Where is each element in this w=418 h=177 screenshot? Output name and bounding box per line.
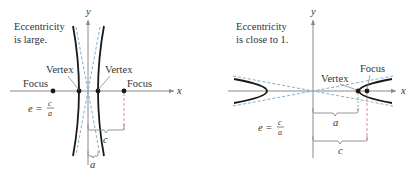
left-brace-c-label: c: [103, 134, 108, 145]
left-brace-a-label: a: [90, 159, 95, 170]
left-y-axis-label: y: [85, 6, 91, 17]
left-focus-right-point: [122, 89, 127, 94]
svg-text:e =: e =: [258, 122, 272, 133]
left-brace-a: [88, 151, 98, 158]
left-vertex-left-leader: [68, 76, 79, 90]
svg-text:a: a: [48, 109, 52, 118]
right-vertex-point: [356, 89, 361, 94]
left-brace-c: [88, 124, 124, 133]
right-y-axis-label: y: [310, 6, 316, 17]
hyperbola-eccentricity-diagram: Eccentricity is large. x y Vertex Vertex…: [0, 0, 418, 177]
left-vertex-right-leader: [98, 76, 110, 90]
right-panel-eccentricity-near-one: Eccentricity is close to 1. x y Vertex F…: [228, 6, 406, 158]
svg-text:c: c: [278, 118, 282, 127]
left-focus-left-label: Focus: [23, 78, 48, 89]
right-vertex-leader: [340, 84, 357, 90]
right-caption-line2: is close to 1.: [236, 34, 289, 45]
svg-text:a: a: [278, 128, 282, 137]
right-brace-a: [313, 108, 358, 116]
left-vertex-right-label: Vertex: [105, 64, 133, 75]
left-vertex-left-label: Vertex: [46, 64, 74, 75]
right-brace-c-label: c: [338, 145, 343, 156]
left-vertex-left-point: [77, 89, 82, 94]
right-brace-c: [313, 136, 367, 144]
right-brace-a-label: a: [333, 117, 338, 128]
right-caption-line1: Eccentricity: [236, 21, 287, 32]
left-caption-line1: Eccentricity: [14, 21, 65, 32]
left-x-axis-label: x: [176, 85, 182, 96]
right-eccentricity-formula: e = c a: [258, 118, 284, 137]
left-caption-line2: is large.: [14, 34, 47, 45]
svg-text:c: c: [48, 99, 52, 108]
right-vertex-label: Vertex: [321, 73, 349, 84]
right-focus-label: Focus: [360, 63, 385, 74]
left-focus-left-point: [51, 89, 56, 94]
right-focus-point: [365, 89, 370, 94]
left-panel-large-eccentricity: Eccentricity is large. x y Vertex Vertex…: [10, 6, 182, 170]
right-focus-leader: [367, 75, 370, 89]
right-x-axis-label: x: [400, 85, 406, 96]
svg-text:e =: e =: [28, 103, 42, 114]
left-vertex-right-point: [96, 89, 101, 94]
left-focus-right-label: Focus: [127, 78, 152, 89]
left-eccentricity-formula: e = c a: [28, 99, 54, 118]
